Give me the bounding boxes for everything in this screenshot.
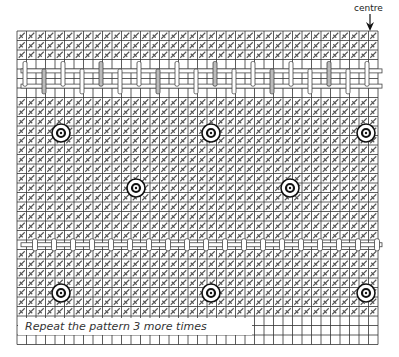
eyelet-icon	[281, 179, 299, 197]
eyelet-icon	[52, 124, 70, 142]
eyelet-icon	[357, 284, 375, 302]
woven-row	[21, 239, 382, 251]
eyelet-icon	[52, 284, 70, 302]
eyelet-icon	[202, 124, 220, 142]
eyelet-icon	[357, 124, 375, 142]
woven-band	[21, 62, 382, 94]
stitch-chart	[0, 0, 399, 357]
repeat-caption: Repeat the pattern 3 more times	[25, 320, 207, 333]
eyelet-icon	[202, 284, 220, 302]
eyelet-icon	[127, 179, 145, 197]
centre-label: centre	[354, 3, 383, 13]
